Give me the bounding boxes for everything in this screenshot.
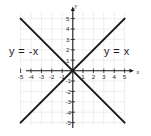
x-tick-label: 4 [112, 73, 116, 80]
x-tick-label: -2 [49, 73, 55, 80]
graph-canvas: x y -5 [0, 0, 151, 136]
y-tick-label: -1 [65, 77, 71, 84]
x-tick-label: 3 [102, 73, 106, 80]
y-tick-label: 1 [66, 57, 70, 64]
equation-label-positive-x: y = x [104, 46, 130, 57]
y-tick-label: -4 [65, 109, 71, 116]
y-tick-label: -5 [65, 119, 71, 126]
x-tick-label: 5 [123, 73, 127, 80]
y-tick-label: 3 [66, 36, 70, 43]
y-axis-name-label: y [74, 3, 78, 9]
x-axis-name-label: x [136, 69, 140, 75]
x-tick-label: -5 [18, 73, 24, 80]
y-tick-label: 4 [66, 25, 70, 32]
y-tick-label: 5 [66, 15, 70, 22]
x-tick-label: -3 [39, 73, 45, 80]
coordinate-graph-figure: x y -5 [0, 0, 151, 136]
y-tick-label: -3 [65, 98, 71, 105]
y-tick-label: -2 [65, 88, 71, 95]
equation-label-negative-x: y = -x [9, 46, 39, 57]
x-axis-arrow-icon [130, 69, 135, 73]
x-tick-label: -4 [28, 73, 34, 80]
x-tick-label: 2 [92, 73, 96, 80]
y-tick-label: 2 [66, 46, 70, 53]
